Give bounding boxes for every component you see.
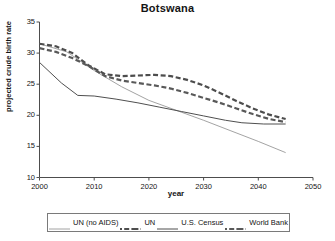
x-tick-label: 2030 bbox=[188, 182, 220, 191]
legend-label: U.S. Census bbox=[181, 218, 223, 227]
axes bbox=[40, 22, 314, 178]
legend-item[interactable]: U.S. Census bbox=[157, 218, 223, 227]
x-tick-label: 2000 bbox=[24, 182, 56, 191]
y-tick-label: 20 bbox=[12, 110, 35, 119]
legend-swatch-icon bbox=[157, 219, 178, 227]
y-tick-label: 10 bbox=[12, 173, 35, 182]
legend-swatch-icon bbox=[120, 219, 141, 227]
x-tick-label: 2020 bbox=[133, 182, 165, 191]
x-tick-label: 2010 bbox=[78, 182, 110, 191]
legend-label: UN bbox=[144, 218, 155, 227]
legend-swatch-icon bbox=[225, 219, 246, 227]
legend-item[interactable]: UN (no AIDS) bbox=[49, 218, 118, 227]
legend-label: World Bank bbox=[249, 218, 288, 227]
legend-item[interactable]: World Bank bbox=[225, 218, 288, 227]
x-tick-label: 2050 bbox=[297, 182, 329, 191]
y-tick-label: 35 bbox=[12, 17, 35, 26]
series-line bbox=[40, 62, 286, 124]
y-tick-label: 25 bbox=[12, 79, 35, 88]
chart-figure: Botswana projected crude birth rate year… bbox=[0, 0, 335, 241]
x-tick-label: 2040 bbox=[242, 182, 274, 191]
y-tick-label: 15 bbox=[12, 141, 35, 150]
y-tick-label: 30 bbox=[12, 48, 35, 57]
series-line bbox=[40, 48, 286, 122]
data-series-group bbox=[40, 44, 286, 153]
plot-area bbox=[0, 0, 335, 241]
legend-swatch-icon bbox=[49, 219, 70, 227]
legend-label: UN (no AIDS) bbox=[73, 218, 118, 227]
legend-item[interactable]: UN bbox=[120, 218, 155, 227]
chart-legend: UN (no AIDS)UNU.S. CensusWorld Bank bbox=[47, 213, 290, 232]
